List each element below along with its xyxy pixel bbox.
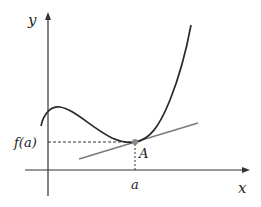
function-curve	[41, 25, 191, 142]
point-a-label: A	[138, 146, 148, 161]
point-a-marker	[132, 139, 138, 145]
function-diagram: y x a f(a) A	[0, 0, 261, 207]
f-of-a-label: f(a)	[13, 135, 37, 150]
x-axis-label: x	[238, 179, 247, 197]
y-axis-label: y	[27, 11, 37, 29]
a-tick-label: a	[131, 177, 139, 192]
